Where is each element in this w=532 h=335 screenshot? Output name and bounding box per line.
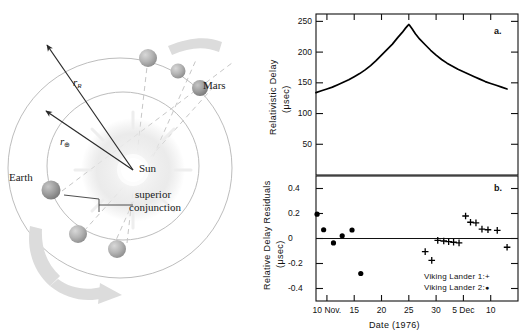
legend-marker-lander1: +	[485, 272, 490, 281]
figure-root: Earth Mars Sun rR r⊕ superior conjunctio…	[0, 0, 532, 335]
data-point-dot	[321, 227, 326, 232]
mars-marker	[139, 49, 157, 67]
r-R-label: rR	[73, 76, 82, 90]
data-point-dot	[331, 240, 336, 245]
data-point-plus	[479, 226, 486, 233]
panel-a-ytick-label: 50	[290, 139, 312, 149]
data-point-dot	[314, 212, 319, 217]
panel-b-ytick-label: -0.4	[288, 283, 303, 293]
data-point-plus	[494, 227, 501, 234]
panel-b-id: b.	[494, 183, 502, 193]
panel-b-ytick-label: 0	[288, 233, 293, 243]
data-point-plus	[422, 248, 429, 255]
panel-a-id: a.	[494, 26, 502, 36]
panel-b-ylabel: Relative Delay Residuals	[262, 180, 272, 290]
panel-a-ytick-label: 200	[290, 47, 312, 57]
orbital-diagram	[0, 0, 260, 335]
panel-b-xtick-label: 10	[471, 305, 511, 315]
data-point-plus	[485, 226, 492, 233]
data-point-plus	[456, 240, 463, 247]
data-point-plus	[473, 220, 480, 227]
mars-label: Mars	[203, 79, 226, 91]
earth-label: Earth	[9, 171, 33, 183]
sun-label: Sun	[139, 162, 156, 174]
data-point-plus	[504, 244, 511, 251]
panel-a-ytick-label: 100	[290, 108, 312, 118]
panel-a-ytick-label: 150	[290, 77, 312, 87]
data-point-dot	[340, 233, 345, 238]
data-point-plus	[462, 213, 469, 220]
charts-group	[282, 0, 532, 335]
panel-b-ytick-label: -0.2	[288, 258, 303, 268]
legend-marker-lander2: ●	[485, 284, 489, 291]
legend-label-lander1: Viking Lander 1:	[424, 272, 485, 281]
panel-b-ylabel-units: (μsec)	[275, 240, 285, 268]
earth-marker	[108, 240, 126, 258]
superior-conjunction-label-line2: conjunction	[129, 201, 181, 213]
series-viking-lander-2	[314, 212, 363, 277]
panel-b-ytick-label: 0.4	[288, 183, 300, 193]
superior-conjunction-label-line1: superior	[135, 188, 171, 200]
panel-a-ytick-label: 250	[290, 16, 312, 26]
r-earth-label: r⊕	[60, 135, 70, 149]
panel-a-frame	[316, 14, 518, 175]
mars-marker	[171, 64, 186, 79]
legend-label-lander2: Viking Lander 2:	[424, 283, 485, 292]
data-point-dot	[349, 227, 354, 232]
legend-entry-lander2: Viking Lander 2:●	[424, 283, 489, 292]
data-point-plus	[428, 257, 435, 264]
panel-b-xlabel: Date (1976)	[369, 320, 420, 330]
panel-a-ylabel: Relativistic Delay	[268, 59, 278, 135]
earth-marker	[42, 181, 61, 200]
data-point-dot	[358, 271, 363, 276]
relativistic-delay-curve	[316, 24, 507, 92]
panel-b-ytick-label: 0.2	[288, 208, 300, 218]
legend-entry-lander1: Viking Lander 1:+	[424, 272, 490, 281]
earth-marker	[69, 225, 87, 243]
